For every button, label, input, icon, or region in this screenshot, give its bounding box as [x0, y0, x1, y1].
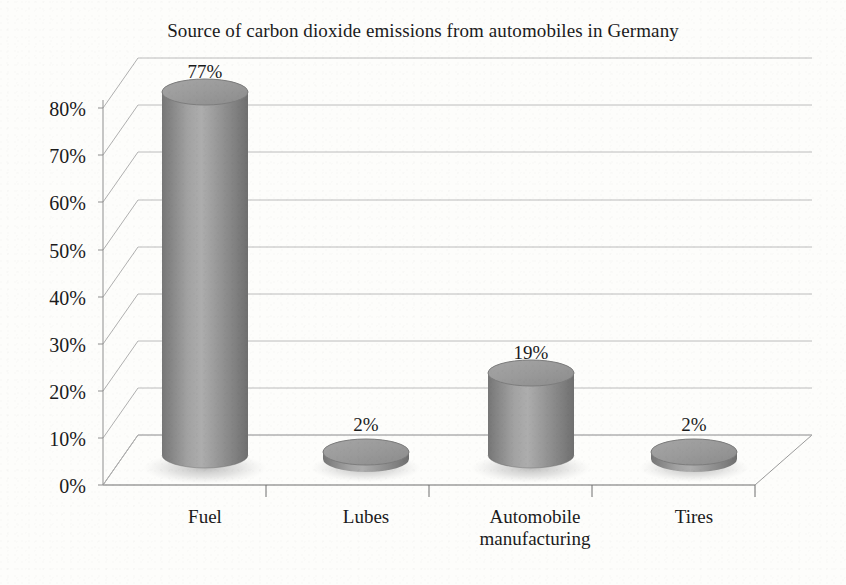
chart-canvas [0, 0, 846, 585]
bar-value-tires: 2% [644, 415, 744, 434]
axis-depth-connectors [103, 58, 138, 485]
ytick-label-20: 20% [24, 382, 86, 402]
bar-value-automobile: 19% [481, 343, 581, 362]
xcat-label-lubes-line1: Lubes [296, 506, 436, 528]
ytick-label-40: 40% [24, 288, 86, 308]
bar-value-lubes: 2% [316, 415, 416, 434]
ytick-label-80: 80% [24, 99, 86, 119]
category-axis-ticks [266, 485, 755, 497]
ytick-label-60: 60% [24, 193, 86, 213]
xcat-label-fuel-line1: Fuel [135, 506, 275, 528]
bar-automobile-manufacturing[interactable] [471, 360, 591, 483]
ytick-label-10: 10% [24, 429, 86, 449]
value-axis [98, 100, 103, 485]
bar-value-fuel: 77% [155, 62, 255, 81]
ytick-label-0: 0% [24, 476, 86, 496]
xcat-label-lubes: Lubes [296, 506, 436, 528]
xcat-label-automobile-line1: Automobile [455, 506, 615, 528]
xcat-label-automobile-manufacturing: Automobile manufacturing [455, 506, 615, 551]
xcat-label-automobile-line2: manufacturing [455, 528, 615, 550]
ytick-label-70: 70% [24, 146, 86, 166]
bar-fuel[interactable] [143, 79, 267, 484]
xcat-label-fuel: Fuel [135, 506, 275, 528]
ytick-label-50: 50% [24, 241, 86, 261]
chart-figure: Source of carbon dioxide emissions from … [0, 0, 846, 585]
ytick-label-30: 30% [24, 335, 86, 355]
xcat-label-tires: Tires [624, 506, 764, 528]
xcat-label-tires-line1: Tires [624, 506, 764, 528]
